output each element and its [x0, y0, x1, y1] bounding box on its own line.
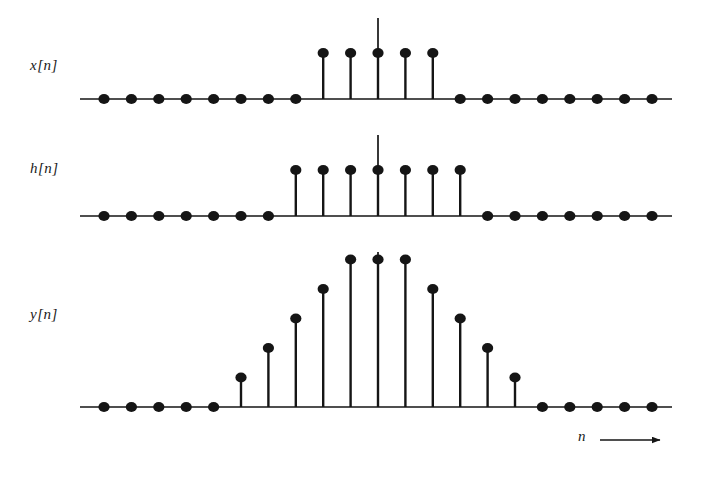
sample-dot-x-7	[564, 94, 575, 104]
sample-dot-y--5	[235, 373, 246, 383]
sample-dot-x--2	[318, 48, 329, 58]
sample-dot-x--8	[153, 94, 164, 104]
sample-dot-h-5	[509, 211, 520, 221]
axis-label-n: n	[578, 428, 586, 445]
sample-dot-h-3	[455, 165, 466, 175]
sample-dot-x--9	[126, 94, 137, 104]
stem-plot-canvas	[0, 0, 707, 477]
sample-dot-y--10	[98, 402, 109, 412]
panel-h	[80, 135, 672, 221]
sample-dot-h-10	[646, 211, 657, 221]
sample-dot-y-3	[455, 314, 466, 324]
sample-dot-y--4	[263, 343, 274, 353]
sample-dot-x-1	[400, 48, 411, 58]
sample-dot-y-9	[619, 402, 630, 412]
sample-dot-x--7	[181, 94, 192, 104]
sample-dot-x-5	[509, 94, 520, 104]
sample-dot-x--5	[235, 94, 246, 104]
sample-dot-y-6	[537, 402, 548, 412]
sample-dot-x-10	[646, 94, 657, 104]
sample-dot-y--7	[181, 402, 192, 412]
sample-dot-x--6	[208, 94, 219, 104]
sample-dot-h--3	[290, 165, 301, 175]
sample-dot-x-3	[455, 94, 466, 104]
sample-dot-x--1	[345, 48, 356, 58]
sample-dot-h-9	[619, 211, 630, 221]
panel-x	[80, 18, 672, 104]
sample-dot-h--7	[181, 211, 192, 221]
sample-dot-h-6	[537, 211, 548, 221]
signal-label-h: h[n]	[30, 160, 59, 177]
panel-y	[80, 252, 672, 412]
sample-dot-y--8	[153, 402, 164, 412]
signal-label-y: y[n]	[30, 306, 58, 323]
sample-dot-x-2	[427, 48, 438, 58]
sample-dot-y-1	[400, 255, 411, 265]
sample-dot-y-7	[564, 402, 575, 412]
sample-dot-h-0	[372, 165, 383, 175]
sample-dot-h--5	[235, 211, 246, 221]
sample-dot-x-0	[372, 48, 383, 58]
sample-dot-h--10	[98, 211, 109, 221]
sample-dot-y--1	[345, 255, 356, 265]
sample-dot-h--4	[263, 211, 274, 221]
sample-dot-h-8	[592, 211, 603, 221]
sample-dot-x-9	[619, 94, 630, 104]
sample-dot-y--9	[126, 402, 137, 412]
sample-dot-x-4	[482, 94, 493, 104]
sample-dot-y--2	[318, 284, 329, 294]
sample-dot-x-8	[592, 94, 603, 104]
panels-group	[80, 18, 672, 412]
sample-dot-h-4	[482, 211, 493, 221]
sample-dot-y-5	[509, 373, 520, 383]
sample-dot-y-10	[646, 402, 657, 412]
signal-label-x: x[n]	[30, 57, 58, 74]
sample-dot-y-4	[482, 343, 493, 353]
sample-dot-h--8	[153, 211, 164, 221]
sample-dot-h--9	[126, 211, 137, 221]
sample-dot-x-6	[537, 94, 548, 104]
sample-dot-y-8	[592, 402, 603, 412]
sample-dot-y-0	[372, 255, 383, 265]
sample-dot-h--1	[345, 165, 356, 175]
sample-dot-y--3	[290, 314, 301, 324]
sample-dot-h-1	[400, 165, 411, 175]
sample-dot-x--4	[263, 94, 274, 104]
sample-dot-h--6	[208, 211, 219, 221]
sample-dot-h-7	[564, 211, 575, 221]
sample-dot-h--2	[318, 165, 329, 175]
sample-dot-h-2	[427, 165, 438, 175]
sample-dot-x--3	[290, 94, 301, 104]
sample-dot-y-2	[427, 284, 438, 294]
sample-dot-x--10	[98, 94, 109, 104]
sample-dot-y--6	[208, 402, 219, 412]
convolution-figure: x[n] h[n] y[n] n	[0, 0, 707, 477]
